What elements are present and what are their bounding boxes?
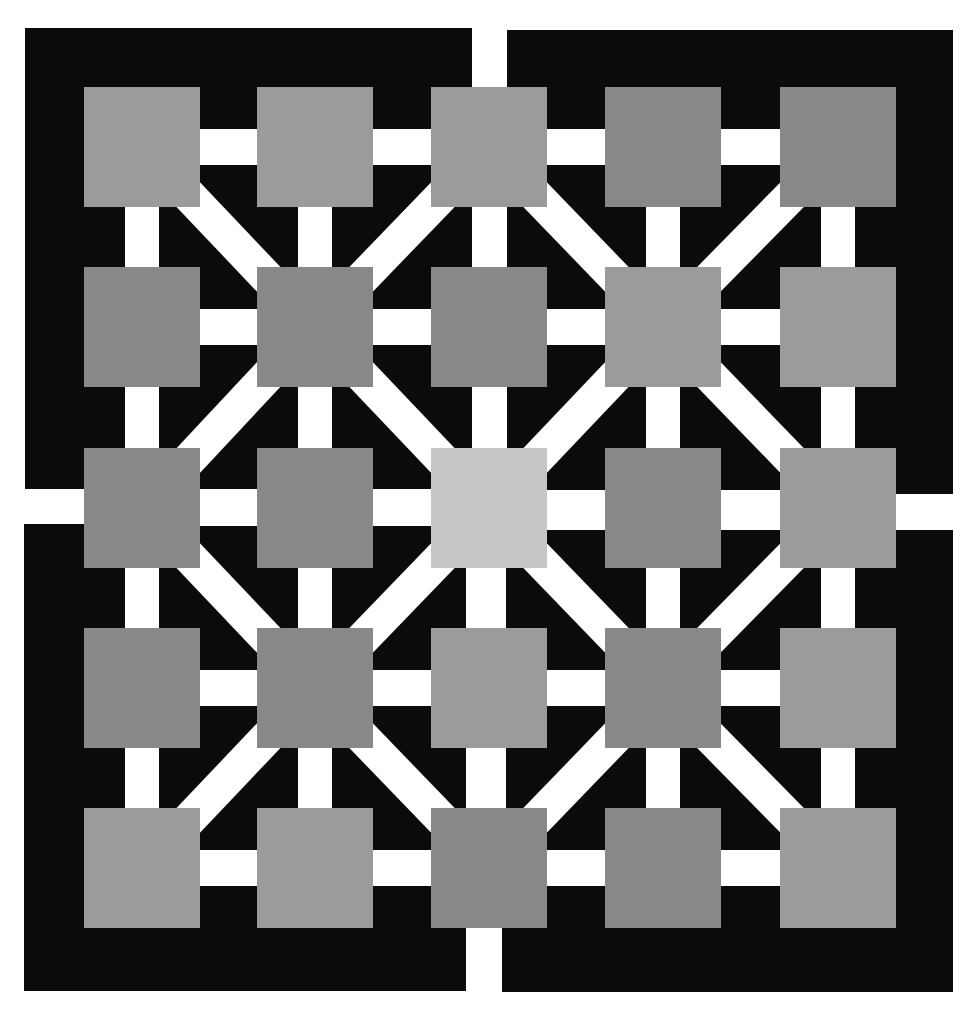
gray-square <box>84 87 200 207</box>
illusion-canvas <box>0 0 974 1018</box>
gray-square <box>257 87 373 207</box>
gray-square <box>257 448 373 568</box>
gray-square <box>605 808 721 928</box>
gray-square <box>780 808 896 928</box>
gray-square <box>84 808 200 928</box>
gray-square <box>605 628 721 748</box>
gray-square <box>780 267 896 387</box>
gray-square <box>257 267 373 387</box>
gray-square <box>84 628 200 748</box>
gray-square <box>257 808 373 928</box>
gray-square <box>431 808 547 928</box>
gray-square <box>780 87 896 207</box>
center-target-square <box>431 448 547 568</box>
gray-square <box>431 87 547 207</box>
gray-square <box>780 628 896 748</box>
gray-square <box>431 267 547 387</box>
gray-square <box>257 628 373 748</box>
gray-square <box>605 448 721 568</box>
gray-square <box>84 267 200 387</box>
gray-square <box>84 448 200 568</box>
gray-square <box>605 87 721 207</box>
gray-square <box>605 267 721 387</box>
gray-square <box>780 448 896 568</box>
gray-square <box>431 628 547 748</box>
